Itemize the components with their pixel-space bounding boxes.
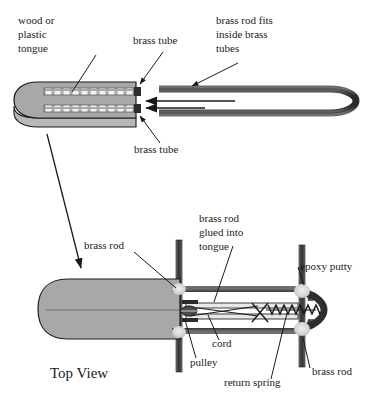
label-brass-rod-glued-line1: brass rod — [199, 212, 240, 224]
label-pulley: pulley — [190, 356, 218, 368]
inner-brass-tube-lower — [186, 314, 298, 319]
inner-brass-tube-upper — [186, 303, 298, 308]
label-brass-rod-fits-line3: tubes — [216, 42, 239, 54]
label-brass-rod-glued-line3: tongue — [199, 240, 229, 252]
label-return-spring: return spring — [224, 376, 281, 388]
canvas-background — [0, 0, 378, 416]
brass-tube-channel-top — [44, 88, 134, 95]
brass-tube-channel-bottom — [44, 105, 134, 112]
brass-tube-mouth-top — [134, 87, 141, 96]
label-brass-rod-left: brass rod — [84, 239, 125, 251]
label-cord: cord — [212, 337, 232, 349]
epoxy-putty-blob-top-right — [294, 284, 310, 298]
label-epoxy-putty: epoxy putty — [300, 260, 353, 272]
epoxy-putty-blob-top-left — [172, 283, 186, 295]
label-brass-tube-bottom: brass tube — [134, 143, 178, 155]
label-brass-tube-top: brass tube — [133, 34, 177, 46]
pulley-bracket-bottom — [182, 318, 198, 322]
pulley-bracket-top — [182, 300, 198, 304]
assembly-diagram-svg: wood or plastic tongue brass tube brass … — [0, 0, 378, 416]
label-brass-rod-right: brass rod — [312, 365, 353, 377]
label-wood-or-plastic-tongue-line2: plastic — [18, 28, 47, 40]
technical-diagram: wood or plastic tongue brass tube brass … — [0, 0, 378, 416]
label-brass-rod-glued-line2: glued into — [199, 226, 244, 238]
view-title-top-view: Top View — [50, 365, 108, 381]
label-brass-rod-fits-line2: inside brass — [216, 28, 268, 40]
epoxy-putty-blob-bottom-right — [294, 322, 310, 336]
label-wood-or-plastic-tongue-line3: tongue — [18, 42, 48, 54]
lower-tongue-body — [38, 279, 180, 339]
label-wood-or-plastic-tongue-line1: wood or — [18, 14, 55, 26]
label-brass-rod-fits-line1: brass rod fits — [216, 14, 273, 26]
epoxy-putty-blob-bottom-left — [172, 326, 186, 338]
brass-tube-mouth-bottom — [134, 104, 141, 113]
